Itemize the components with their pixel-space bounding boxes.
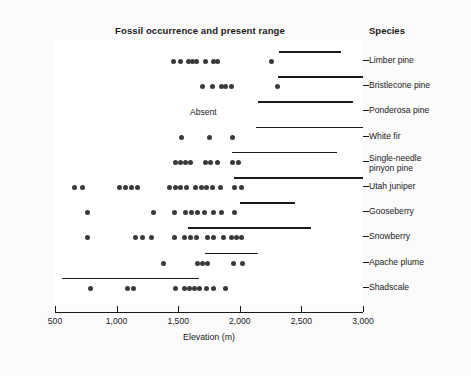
x-tick-label: 3,000 bbox=[352, 316, 374, 326]
absent-annotation: Absent bbox=[190, 107, 217, 117]
x-tick-label: 2,500 bbox=[291, 316, 313, 326]
x-tick-label: 1,000 bbox=[106, 316, 128, 326]
fossil-occurrence-dot bbox=[207, 135, 212, 140]
fossil-occurrence-dot bbox=[203, 59, 208, 64]
fossil-occurrence-dot bbox=[231, 261, 236, 266]
fossil-occurrence-dot bbox=[205, 261, 210, 266]
fossil-occurrence-dot bbox=[85, 210, 90, 215]
x-axis-line bbox=[55, 312, 363, 313]
x-tick bbox=[117, 306, 118, 312]
species-label: Utah juniper bbox=[369, 181, 415, 191]
present-range-bar bbox=[256, 127, 363, 129]
present-range-bar bbox=[258, 101, 353, 103]
present-range-bar bbox=[232, 152, 337, 154]
species-label: Single-needle pinyon pine bbox=[369, 153, 422, 173]
figure-container: Fossil occurrence and present range Spec… bbox=[0, 0, 471, 376]
x-tick-label: 500 bbox=[48, 316, 62, 326]
fossil-occurrence-dot bbox=[193, 185, 198, 190]
fossil-occurrence-dot bbox=[239, 185, 244, 190]
present-range-bar bbox=[62, 278, 199, 280]
fossil-occurrence-dot bbox=[240, 261, 245, 266]
fossil-occurrence-dot bbox=[135, 185, 140, 190]
fossil-occurrence-dot bbox=[188, 160, 193, 165]
fossil-occurrence-dot bbox=[223, 286, 228, 291]
fossil-occurrence-dot bbox=[236, 160, 241, 165]
fossil-occurrence-dot bbox=[215, 160, 220, 165]
fossil-occurrence-dot bbox=[223, 84, 228, 89]
fossil-occurrence-dot bbox=[129, 185, 134, 190]
fossil-occurrence-dot bbox=[208, 160, 213, 165]
fossil-occurrence-dot bbox=[171, 59, 176, 64]
fossil-occurrence-dot bbox=[204, 185, 209, 190]
x-tick-label: 2,000 bbox=[229, 316, 251, 326]
species-label: Ponderosa pine bbox=[369, 105, 429, 115]
present-range-bar bbox=[188, 227, 311, 229]
fossil-occurrence-dot bbox=[85, 235, 90, 240]
species-column-header: Species bbox=[369, 25, 405, 36]
fossil-occurrence-dot bbox=[123, 185, 128, 190]
x-axis-title: Elevation (m) bbox=[55, 332, 363, 342]
fossil-occurrence-dot bbox=[229, 84, 234, 89]
present-range-bar bbox=[234, 177, 363, 179]
fossil-occurrence-dot bbox=[219, 210, 224, 215]
present-range-bar bbox=[205, 253, 258, 255]
species-label: Shadscale bbox=[369, 282, 409, 292]
present-range-bar bbox=[240, 202, 295, 204]
x-tick bbox=[178, 306, 179, 312]
fossil-occurrence-dot bbox=[230, 160, 235, 165]
x-tick bbox=[363, 306, 364, 312]
fossil-occurrence-dot bbox=[80, 185, 85, 190]
x-tick bbox=[301, 306, 302, 312]
fossil-occurrence-dot bbox=[197, 286, 202, 291]
x-tick-label: 1,500 bbox=[167, 316, 189, 326]
fossil-occurrence-dot bbox=[117, 185, 122, 190]
fossil-occurrence-dot bbox=[218, 185, 223, 190]
fossil-occurrence-dot bbox=[230, 135, 235, 140]
species-label: Limber pine bbox=[369, 55, 414, 65]
species-label: Apache plume bbox=[369, 257, 424, 267]
species-label: Gooseberry bbox=[369, 206, 414, 216]
species-label: White fir bbox=[369, 131, 401, 141]
fossil-occurrence-dot bbox=[202, 210, 207, 215]
x-tick bbox=[240, 306, 241, 312]
present-range-bar bbox=[278, 76, 363, 78]
fossil-occurrence-dot bbox=[204, 286, 209, 291]
species-label: Snowberry bbox=[369, 231, 410, 241]
species-label: Bristlecone pine bbox=[369, 80, 430, 90]
fossil-occurrence-dot bbox=[161, 261, 166, 266]
present-range-bar bbox=[279, 51, 341, 53]
x-tick bbox=[55, 306, 56, 312]
fossil-occurrence-dot bbox=[192, 286, 197, 291]
chart-title: Fossil occurrence and present range bbox=[55, 25, 345, 36]
fossil-occurrence-dot bbox=[239, 235, 244, 240]
fossil-occurrence-dot bbox=[125, 286, 130, 291]
